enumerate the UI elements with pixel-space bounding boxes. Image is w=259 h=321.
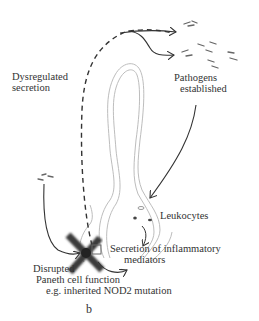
label-secretion-mediators: Secretion of inflammatory mediators <box>110 243 221 265</box>
label-dysregulated-secretion: Dysregulated secretion <box>12 71 68 93</box>
label-paneth-cell: Paneth cell function e.g. inherited NOD2… <box>36 274 172 296</box>
label-disrupted: Disrupted <box>33 263 74 274</box>
panel-label: b <box>86 304 92 315</box>
dysregulated-secretion-arrow <box>81 30 172 245</box>
pathogens-icon <box>182 21 237 68</box>
label-leukocytes: Leukocytes <box>160 210 208 221</box>
label-pathogens-established: Pathogens established <box>174 72 227 94</box>
crypt-outline <box>80 64 172 262</box>
